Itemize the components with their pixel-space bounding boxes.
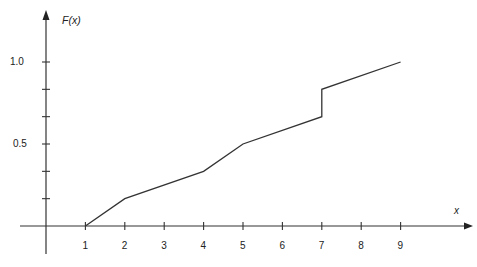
x-tick-label: 6 — [279, 241, 285, 251]
y-tick-text: 1.0 — [10, 56, 24, 67]
x-tick-label: 1 — [82, 241, 88, 251]
x-tick-label: 9 — [398, 241, 404, 251]
x-tick-label: 5 — [240, 241, 246, 251]
x-tick-label: 3 — [161, 241, 167, 251]
x-tick-label: 2 — [122, 241, 128, 251]
x-tick-label: 4 — [201, 241, 207, 251]
y-tick-label-1: 1.0 — [10, 57, 24, 67]
cdf-chart — [0, 0, 477, 267]
y-tick-text: 0.5 — [13, 138, 27, 149]
x-tick-label: 7 — [319, 241, 325, 251]
y-axis-label-text: F(x) — [62, 14, 81, 26]
cdf-line — [85, 62, 400, 226]
axes — [20, 10, 473, 254]
x-tick-label: 8 — [358, 241, 364, 251]
ticks — [42, 62, 401, 230]
y-tick-label-05: 0.5 — [13, 139, 27, 149]
x-axis-label: x — [454, 206, 459, 216]
x-axis-label-text: x — [454, 205, 459, 216]
y-axis-label: F(x) — [62, 15, 81, 26]
